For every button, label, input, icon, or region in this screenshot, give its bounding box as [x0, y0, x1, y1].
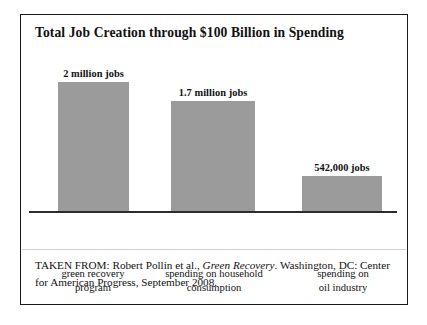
bar-rect — [171, 101, 255, 211]
bar-rect — [58, 82, 129, 211]
bar-rect — [302, 176, 382, 211]
bar-group: 2 million jobs — [58, 68, 129, 211]
bar-value-label: 2 million jobs — [58, 68, 129, 79]
figure-title: Total Job Creation through $100 Billion … — [35, 25, 397, 41]
source-work-title: Green Recovery — [203, 259, 275, 271]
bar-value-label: 542,000 jobs — [302, 162, 382, 173]
bar-chart-plot-area: 2 million jobs 1.7 million jobs 542,000 … — [21, 53, 407, 253]
axis-baseline — [29, 211, 397, 213]
bar-group: 1.7 million jobs — [171, 87, 255, 211]
bar-group: 542,000 jobs — [302, 162, 382, 211]
source-divider — [22, 249, 406, 250]
figure-box: Total Job Creation through $100 Billion … — [20, 14, 408, 305]
bar-value-label: 1.7 million jobs — [171, 87, 255, 98]
source-citation: TAKEN FROM: Robert Pollin et al., Green … — [35, 257, 395, 290]
source-prefix: TAKEN FROM: Robert Pollin et al., — [35, 259, 203, 271]
